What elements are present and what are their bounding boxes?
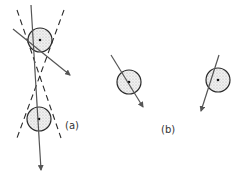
top-particle-circle bbox=[28, 28, 52, 52]
label-b: (b) bbox=[161, 124, 175, 135]
left-particle-circle bbox=[117, 70, 141, 94]
panel-b: (b) bbox=[111, 55, 230, 135]
right-particle-circle bbox=[206, 68, 230, 92]
panel-a: (a) bbox=[13, 5, 79, 170]
center-dot bbox=[217, 79, 220, 82]
diagram-figure: (a) (b) bbox=[0, 0, 242, 175]
label-a: (a) bbox=[65, 120, 79, 131]
center-dot bbox=[39, 39, 42, 42]
diagram-canvas: (a) (b) bbox=[0, 0, 242, 175]
